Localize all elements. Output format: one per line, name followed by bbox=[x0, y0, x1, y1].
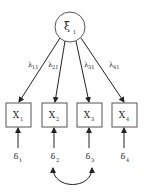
loading-label-4: λ 41 bbox=[109, 61, 119, 70]
indicator-x1: X 1 bbox=[6, 103, 31, 127]
loading-arrow-2 bbox=[55, 41, 65, 102]
loading-arrow-1 bbox=[19, 38, 60, 102]
indicator-x3: X 3 bbox=[77, 103, 102, 127]
error-label-4: δ 4 bbox=[121, 152, 130, 163]
svg-text:δ: δ bbox=[86, 152, 91, 161]
svg-text:X: X bbox=[49, 110, 56, 120]
svg-text:2: 2 bbox=[56, 116, 59, 122]
svg-text:X: X bbox=[13, 110, 20, 120]
svg-text:31: 31 bbox=[88, 64, 94, 70]
error-covariance-arrow bbox=[53, 168, 92, 185]
svg-text:δ: δ bbox=[51, 152, 56, 161]
svg-text:21: 21 bbox=[52, 64, 58, 70]
loading-label-2: λ 21 bbox=[48, 61, 58, 70]
indicator-x2: X 2 bbox=[42, 103, 67, 127]
error-label-2: δ 2 bbox=[51, 152, 60, 163]
svg-text:3: 3 bbox=[91, 157, 94, 163]
indicator-x4: X 4 bbox=[112, 103, 137, 127]
svg-text:4: 4 bbox=[126, 116, 129, 122]
svg-text:δ: δ bbox=[121, 152, 126, 161]
svg-text:3: 3 bbox=[91, 116, 94, 122]
svg-text:δ: δ bbox=[14, 152, 19, 161]
svg-text:X: X bbox=[119, 110, 126, 120]
svg-text:1: 1 bbox=[19, 157, 22, 163]
latent-factor-xi1: ξ 1 bbox=[55, 12, 85, 42]
svg-text:41: 41 bbox=[113, 64, 119, 70]
latent-symbol: ξ bbox=[64, 20, 70, 33]
svg-text:11: 11 bbox=[32, 64, 38, 70]
loading-label-1: λ 11 bbox=[28, 61, 38, 70]
svg-text:1: 1 bbox=[20, 116, 23, 122]
svg-text:4: 4 bbox=[126, 157, 129, 163]
loading-arrow-3 bbox=[76, 41, 89, 102]
svg-text:2: 2 bbox=[56, 157, 59, 163]
error-label-1: δ 1 bbox=[14, 152, 23, 163]
svg-text:X: X bbox=[84, 110, 91, 120]
latent-subscript: 1 bbox=[73, 29, 76, 35]
sem-diagram: ξ 1 λ 11 λ 21 λ 31 λ 41 X 1 X 2 X 3 X 4 bbox=[0, 0, 144, 195]
loading-label-3: λ 31 bbox=[84, 61, 94, 70]
error-label-3: δ 3 bbox=[86, 152, 95, 163]
